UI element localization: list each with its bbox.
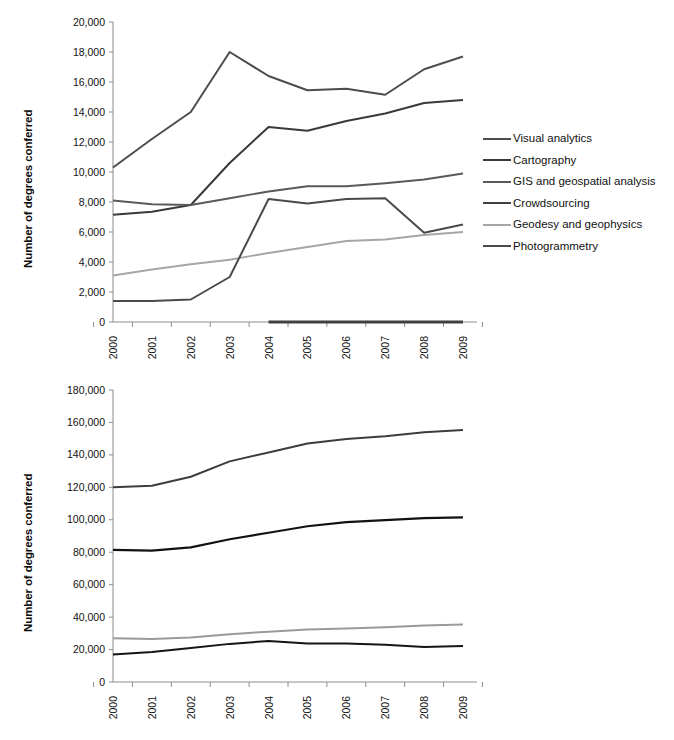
legend-swatch-photogrammetry xyxy=(483,245,511,247)
y-tick-label: 20,000 xyxy=(73,16,105,28)
x-tick-label: 2006 xyxy=(340,336,352,360)
x-tick-label: 2004 xyxy=(263,336,275,360)
series-line-forecasting xyxy=(113,517,463,550)
legend-swatch-crowdsourcing xyxy=(483,202,511,204)
series-line-visual-analytics xyxy=(113,52,463,168)
y-tick-label: 180,000 xyxy=(67,384,105,396)
legend-item-geodesy-and-geophysics[interactable]: Geodesy and geophysics xyxy=(483,214,656,236)
y-tick-label: 12,000 xyxy=(73,136,105,148)
chart-1-plot-area: 02,0004,0006,0008,00010,00012,00014,0001… xyxy=(0,0,560,370)
x-tick-label: 2007 xyxy=(379,336,391,360)
legend-item-gis-and-geospatial-analysis[interactable]: GIS and geospatial analysis xyxy=(483,171,656,193)
y-tick-label: 20,000 xyxy=(73,643,105,655)
x-tick-label: 2003 xyxy=(224,696,236,720)
y-tick-label: 0 xyxy=(99,676,105,688)
x-tick-label: 2009 xyxy=(457,696,469,720)
series-line-geodesy-and-geophysics xyxy=(113,232,463,276)
y-tick-label: 0 xyxy=(99,316,105,328)
chart-1-legend: Visual analytics Cartography GIS and geo… xyxy=(483,128,656,257)
y-tick-label: 80,000 xyxy=(73,546,105,558)
x-tick-label: 2005 xyxy=(301,696,313,720)
legend-label-gis-and-geospatial-analysis: GIS and geospatial analysis xyxy=(513,176,656,188)
x-tick-label: 2004 xyxy=(263,696,275,720)
y-tick-label: 6,000 xyxy=(79,226,105,238)
series-line-cartography xyxy=(113,100,463,215)
chart-2-plot-area: 020,00040,00060,00080,000100,000120,0001… xyxy=(0,370,560,740)
legend-item-photogrammetry[interactable]: Photogrammetry xyxy=(483,236,656,258)
x-tick-label: 2005 xyxy=(301,336,313,360)
legend-label-photogrammetry: Photogrammetry xyxy=(513,241,598,253)
x-tick-label: 2000 xyxy=(107,336,119,360)
legend-item-cartography[interactable]: Cartography xyxy=(483,150,656,172)
legend-swatch-visual-analytics xyxy=(483,138,511,140)
x-tick-label: 2008 xyxy=(418,696,430,720)
legend-label-visual-analytics: Visual analytics xyxy=(513,133,592,145)
x-tick-label: 2007 xyxy=(379,696,391,720)
chart-2-svg: 020,00040,00060,00080,000100,000120,0001… xyxy=(0,370,560,740)
y-tick-label: 100,000 xyxy=(67,513,105,525)
x-tick-label: 2001 xyxy=(146,336,158,360)
x-tick-label: 2002 xyxy=(185,696,197,720)
y-tick-label: 18,000 xyxy=(73,46,105,58)
y-tick-label: 40,000 xyxy=(73,611,105,623)
legend-label-geodesy-and-geophysics: Geodesy and geophysics xyxy=(513,219,642,231)
series-line-geoint-fusion xyxy=(113,641,463,654)
chart-2-container: Number of degrees conferred 020,00040,00… xyxy=(0,370,674,740)
y-tick-label: 160,000 xyxy=(67,416,105,428)
x-tick-label: 2001 xyxy=(146,696,158,720)
x-tick-label: 2002 xyxy=(185,336,197,360)
y-tick-label: 16,000 xyxy=(73,76,105,88)
y-tick-label: 120,000 xyxy=(67,481,105,493)
legend-item-crowdsourcing[interactable]: Crowdsourcing xyxy=(483,193,656,215)
y-tick-label: 2,000 xyxy=(79,286,105,298)
x-tick-label: 2000 xyxy=(107,696,119,720)
chart-1-svg: 02,0004,0006,0008,00010,00012,00014,0001… xyxy=(0,0,560,370)
x-tick-label: 2009 xyxy=(457,336,469,360)
y-tick-label: 10,000 xyxy=(73,166,105,178)
y-tick-label: 8,000 xyxy=(79,196,105,208)
y-tick-label: 140,000 xyxy=(67,448,105,460)
legend-item-visual-analytics[interactable]: Visual analytics xyxy=(483,128,656,150)
chart-1-container: Number of degrees conferred 02,0004,0006… xyxy=(0,0,674,370)
x-tick-label: 2003 xyxy=(224,336,236,360)
y-tick-label: 4,000 xyxy=(79,256,105,268)
series-line-human-geography xyxy=(113,430,463,487)
x-tick-label: 2006 xyxy=(340,696,352,720)
x-tick-label: 2008 xyxy=(418,336,430,360)
legend-swatch-geodesy-and-geophysics xyxy=(483,224,511,226)
y-tick-label: 14,000 xyxy=(73,106,105,118)
legend-label-crowdsourcing: Crowdsourcing xyxy=(513,198,590,210)
y-tick-label: 60,000 xyxy=(73,578,105,590)
legend-swatch-gis-and-geospatial-analysis xyxy=(483,181,511,183)
legend-label-cartography: Cartography xyxy=(513,155,576,167)
series-line-remote-sensing xyxy=(113,624,463,639)
legend-swatch-cartography xyxy=(483,159,511,161)
